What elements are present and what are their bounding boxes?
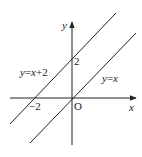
coordinate-plane-diagram: y x O 2 −2 y=x+2 y=x <box>0 0 142 157</box>
tick-label-y-2: 2 <box>74 55 80 67</box>
line-y-equals-x <box>30 33 136 143</box>
label-y-equals-x: y=x <box>101 72 118 84</box>
x-axis-label: x <box>128 101 134 113</box>
y-axis-label: y <box>61 19 67 31</box>
tick-label-x-neg2: −2 <box>29 100 41 112</box>
label-y-equals-x-plus-2: y=x+2 <box>19 66 48 78</box>
origin-label: O <box>74 100 82 112</box>
